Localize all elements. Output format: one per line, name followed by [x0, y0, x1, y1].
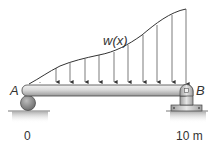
ground-b	[166, 111, 208, 123]
support-b-label: B	[196, 84, 205, 97]
load-label: w(x)	[103, 34, 128, 47]
x-end-label: 10 m	[176, 130, 203, 142]
beam	[22, 85, 190, 96]
support-a-label: A	[10, 84, 19, 97]
ground-a	[8, 111, 50, 123]
roller-support-a	[21, 96, 36, 111]
x-start-label: 0	[24, 130, 31, 142]
beam-diagram: w(x) A B 0 10 m	[0, 0, 209, 150]
beam-figure	[0, 0, 209, 150]
